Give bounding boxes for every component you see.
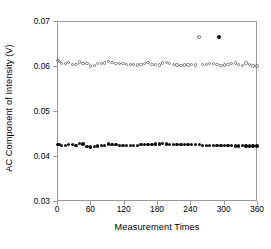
chart-figure: AC Component of Intensity (V) 0.030.040.… — [0, 0, 271, 249]
data-point — [89, 64, 92, 67]
data-point — [175, 63, 178, 66]
x-tick-label: 240 — [173, 205, 207, 213]
data-point — [215, 144, 218, 147]
y-tick-label: 0.05 — [18, 107, 50, 115]
data-point — [154, 142, 157, 145]
x-tick-mark — [157, 201, 158, 205]
x-tick-label: 180 — [140, 205, 174, 213]
data-point — [118, 62, 121, 65]
data-point — [146, 143, 149, 146]
x-tick-mark — [57, 201, 58, 205]
data-point — [251, 144, 254, 147]
x-tick-label: 0 — [40, 205, 74, 213]
data-point — [110, 61, 113, 64]
data-point — [74, 63, 77, 66]
data-point — [96, 144, 99, 147]
data-point — [146, 61, 149, 64]
data-point — [255, 144, 258, 147]
data-point — [194, 63, 197, 66]
data-point — [125, 144, 128, 147]
data-point — [110, 143, 113, 146]
plot-area — [57, 21, 257, 201]
y-tick-mark — [53, 66, 57, 67]
y-axis-title-text: AC Component of Intensity (V) — [4, 44, 14, 172]
x-tick-mark — [224, 201, 225, 205]
x-axis-title: Measurement Times — [57, 222, 257, 232]
data-point — [139, 63, 142, 66]
data-point — [81, 142, 84, 145]
data-point — [215, 63, 218, 66]
y-tick-label: 0.06 — [18, 62, 50, 70]
y-tick-label: 0.03 — [18, 197, 50, 205]
x-tick-label: 300 — [207, 205, 241, 213]
data-point — [194, 143, 197, 146]
data-point — [89, 145, 92, 148]
data-point — [125, 63, 128, 66]
data-point — [74, 144, 77, 147]
x-tick-mark — [190, 201, 191, 205]
data-point — [60, 62, 63, 65]
data-point — [255, 64, 258, 67]
data-point — [223, 63, 226, 66]
data-point — [251, 64, 254, 67]
y-tick-label: 0.04 — [18, 152, 50, 160]
x-tick-mark — [124, 201, 125, 205]
data-point — [60, 144, 63, 147]
data-point — [161, 61, 164, 64]
y-tick-label: 0.07 — [18, 17, 50, 25]
x-tick-label: 60 — [73, 205, 107, 213]
data-point — [118, 144, 121, 147]
data-point — [190, 63, 193, 66]
y-tick-mark — [53, 156, 57, 157]
x-tick-label: 120 — [107, 205, 141, 213]
data-point — [183, 63, 186, 66]
y-axis-title: AC Component of Intensity (V) — [0, 0, 18, 215]
data-point — [244, 61, 247, 64]
y-tick-mark — [53, 111, 57, 112]
data-point — [183, 143, 186, 146]
y-tick-mark — [53, 21, 57, 22]
x-tick-mark — [257, 201, 258, 205]
x-tick-mark — [90, 201, 91, 205]
x-tick-label: 360 — [240, 205, 271, 213]
data-point — [244, 144, 247, 147]
